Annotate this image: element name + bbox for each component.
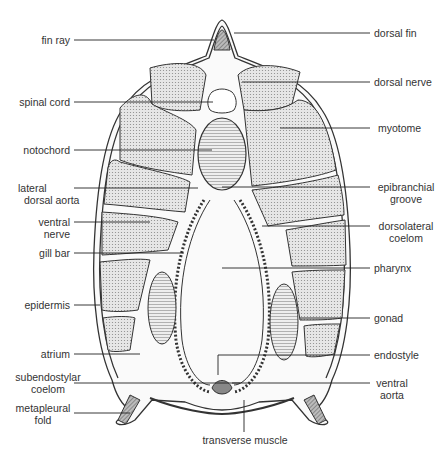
- label-ventral-nerve: ventral nerve: [0, 216, 70, 240]
- label-dorsal-nerve: dorsal nerve: [374, 76, 432, 88]
- label-epidermis: epidermis: [0, 299, 70, 311]
- label-ventral-aorta: ventral aorta: [372, 377, 412, 401]
- label-myotome: myotome: [378, 122, 421, 134]
- label-dorsal-fin: dorsal fin: [374, 27, 417, 39]
- label-endostyle: endostyle: [374, 349, 419, 361]
- spinal-cord-shape: [208, 89, 236, 113]
- gonad-left: [148, 272, 176, 344]
- label-lateral-dorsal-aorta: lateral dorsal aorta: [18, 182, 79, 206]
- notochord-shape: [198, 118, 246, 190]
- label-fin-ray: fin ray: [0, 34, 70, 46]
- label-pharynx: pharynx: [374, 262, 411, 274]
- label-epibranchial-groove: epibranchial groove: [372, 181, 440, 205]
- label-dorsolateral-coelom: dorsolateral coelom: [372, 220, 440, 244]
- label-metapleural-fold: metapleural fold: [12, 402, 74, 426]
- label-spinal-cord: spinal cord: [0, 96, 70, 108]
- label-atrium: atrium: [0, 348, 70, 360]
- gonad-right: [270, 284, 298, 360]
- label-transverse-muscle: transverse muscle: [170, 434, 320, 446]
- label-subendostylar-coelom: subendostylar coelom: [12, 371, 84, 395]
- label-gonad: gonad: [374, 312, 403, 324]
- label-gill-bar: gill bar: [0, 247, 70, 259]
- label-notochord: notochord: [0, 144, 70, 156]
